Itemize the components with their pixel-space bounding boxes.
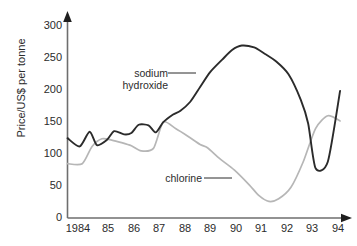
series-annotation-sodium-line2: hydroxide <box>88 79 168 91</box>
x-tick-label-1988: 88 <box>172 222 198 234</box>
series-line-sodium-hydroxide <box>68 45 341 170</box>
line-chart: Price/US$ per tonne 300 250 200 150 100 … <box>0 0 357 246</box>
x-tick-label-1985: 85 <box>95 222 121 234</box>
y-tick-label-250: 250 <box>28 51 62 63</box>
y-tick-label-150: 150 <box>28 115 62 127</box>
y-tick-label-0: 0 <box>28 211 62 223</box>
x-tick-label-1994: 94 <box>325 222 351 234</box>
y-tick-label-100: 100 <box>28 147 62 159</box>
x-axis-arrow-icon <box>341 214 352 222</box>
x-tick-label-1987: 87 <box>146 222 172 234</box>
y-tick-label-50: 50 <box>28 179 62 191</box>
x-tick-label-1986: 86 <box>121 222 147 234</box>
x-tick-label-1984: 1984 <box>62 222 94 234</box>
series-annotation-sodium-line1: sodium <box>88 67 168 79</box>
x-tick-label-1990: 90 <box>223 222 249 234</box>
x-tick-label-1989: 89 <box>197 222 223 234</box>
y-tick-label-300: 300 <box>28 19 62 31</box>
x-tick-label-1993: 93 <box>299 222 325 234</box>
series-annotation-sodium-hydroxide: sodium hydroxide <box>88 67 168 91</box>
y-tick-label-200: 200 <box>28 83 62 95</box>
y-axis-title: Price/US$ per tonne <box>15 23 27 153</box>
x-tick-label-1992: 92 <box>274 222 300 234</box>
series-line-chlorine <box>68 116 341 202</box>
x-tick-label-1991: 91 <box>248 222 274 234</box>
y-axis-arrow-icon <box>63 11 72 22</box>
series-annotation-chlorine: chlorine <box>144 172 202 184</box>
